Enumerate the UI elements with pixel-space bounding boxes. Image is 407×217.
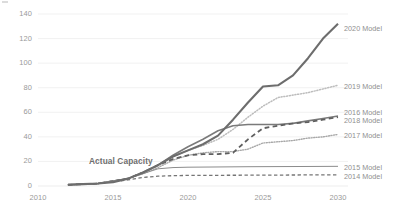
- x-tick-label: 2015: [93, 193, 133, 202]
- y-tick-label: 100: [6, 58, 32, 67]
- legend-label-2014-model: 2014 Model: [344, 172, 382, 181]
- y-tick-label: 0: [6, 181, 32, 190]
- x-tick-label: 2020: [168, 193, 208, 202]
- y-tick-label: 120: [6, 34, 32, 43]
- actual-capacity-label: Actual Capacity: [89, 156, 153, 166]
- x-tick-label: 2010: [18, 193, 58, 202]
- y-tick-label: 60: [6, 107, 32, 116]
- legend-label-2019-model: 2019 Model: [344, 82, 382, 91]
- series-line-2016-model: [68, 116, 338, 185]
- series-line-2018-model: [68, 117, 338, 185]
- x-tick-label: 2030: [318, 193, 358, 202]
- y-tick-label: 140: [6, 9, 32, 18]
- legend-label-2017-model: 2017 Model: [344, 131, 382, 140]
- legend-label-2020-model: 2020 Model: [344, 24, 382, 33]
- y-tick-label: 20: [6, 156, 32, 165]
- capacity-forecast-chart: 020406080100120140 20102015202020252030 …: [0, 0, 407, 217]
- y-tick-label: 40: [6, 132, 32, 141]
- y-tick-label: 80: [6, 83, 32, 92]
- x-tick-label: 2025: [243, 193, 283, 202]
- series-line-2019-model: [68, 85, 338, 185]
- legend-label-2018-model: 2018 Model: [344, 116, 382, 125]
